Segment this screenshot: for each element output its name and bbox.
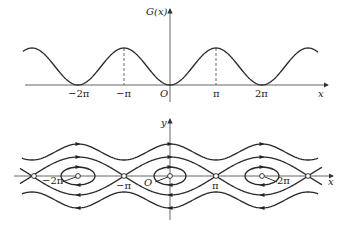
label-pointer-origin (155, 177, 168, 182)
tick-2pi: 2π (277, 175, 290, 186)
potential-plot: G(x) x O −2π −π π 2π (23, 6, 328, 102)
diagram-canvas: G(x) x O −2π −π π 2π y x O −2π −π π 2π (0, 0, 345, 232)
g-axis-label: G(x) (146, 6, 168, 17)
direction-arrow-icon (76, 142, 81, 146)
tick-neg-pi: −π (116, 88, 131, 99)
direction-arrow-icon (260, 155, 265, 159)
g-curve (23, 48, 318, 85)
direction-arrow-icon (76, 193, 81, 197)
x-axis-label: x (328, 176, 334, 187)
tick-2pi: 2π (255, 88, 268, 99)
origin-label: O (160, 88, 168, 99)
center-point (76, 174, 81, 179)
center-point (260, 174, 265, 179)
direction-arrow-icon (260, 193, 265, 197)
tick-pi: π (213, 88, 220, 99)
saddle-point (214, 174, 219, 179)
label-pointer-neg-2pi (62, 177, 76, 182)
tick-pi: π (212, 180, 219, 191)
diagram-svg: G(x) x O −2π −π π 2π y x O −2π −π π 2π (0, 0, 345, 232)
saddle-point (32, 174, 37, 179)
tick-neg-2pi: −2π (42, 175, 64, 186)
direction-arrow-icon (260, 206, 265, 210)
origin-label: O (144, 177, 152, 188)
saddle-point (122, 174, 127, 179)
direction-arrow-icon (260, 142, 265, 146)
y-axis-label: y (160, 117, 167, 128)
x-axis-label: x (318, 88, 324, 99)
direction-arrow-icon (76, 206, 81, 210)
tick-neg-pi: −π (116, 180, 131, 191)
phase-portrait: y x O −2π −π π 2π (14, 117, 334, 220)
label-pointer-2pi (265, 177, 277, 182)
center-point (168, 174, 173, 179)
tick-neg-2pi: −2π (68, 88, 90, 99)
saddle-point (306, 174, 311, 179)
direction-arrow-icon (76, 155, 81, 159)
